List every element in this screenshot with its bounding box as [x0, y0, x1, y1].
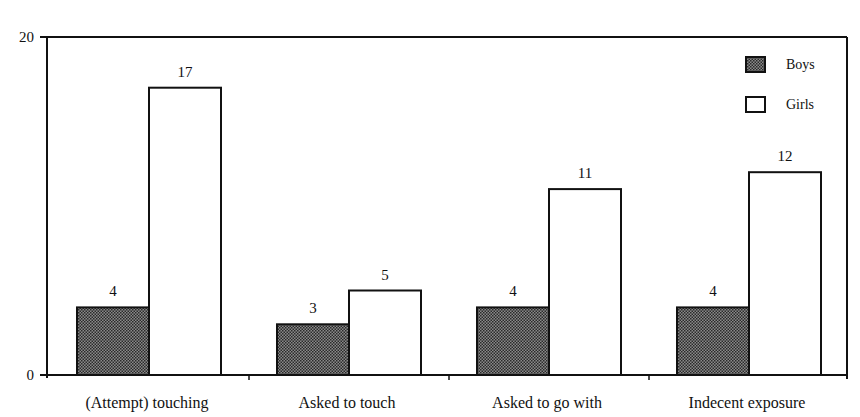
legend-swatch-girls: [746, 97, 765, 112]
x-category-label: Asked to touch: [299, 394, 396, 411]
bar-group: 35: [277, 267, 421, 376]
y-tick-label-top: 20: [19, 29, 34, 45]
x-category-label: Indecent exposure: [689, 394, 806, 412]
bar-girls: [549, 189, 621, 375]
bar-value-label: 3: [309, 300, 317, 316]
legend-label: Boys: [786, 57, 815, 72]
bar-boys: [677, 307, 749, 375]
bar-girls: [349, 291, 421, 376]
y-tick-label-bottom: 0: [27, 367, 35, 383]
plot-area: 200417(Attempt) touching35Asked to touch…: [19, 29, 847, 412]
bar-girls: [149, 88, 221, 375]
bar-value-label: 11: [578, 165, 592, 181]
bar-boys: [77, 307, 149, 375]
bar-chart: 200417(Attempt) touching35Asked to touch…: [0, 0, 860, 417]
bar-girls: [749, 172, 821, 375]
bar-boys: [277, 324, 349, 375]
legend: BoysGirls: [746, 57, 815, 112]
bar-group: 412: [677, 148, 821, 375]
bar-value-label: 4: [509, 283, 517, 299]
bar-group: 417: [77, 64, 221, 375]
bar-group: 411: [477, 165, 621, 375]
legend-label: Girls: [786, 97, 814, 112]
x-category-label: (Attempt) touching: [85, 394, 208, 412]
bar-value-label: 17: [178, 64, 194, 80]
bar-value-label: 12: [778, 148, 793, 164]
x-category-label: Asked to go with: [492, 394, 602, 412]
legend-swatch-boys: [746, 57, 765, 72]
bar-boys: [477, 307, 549, 375]
bar-value-label: 4: [709, 283, 717, 299]
bar-value-label: 4: [109, 283, 117, 299]
bar-value-label: 5: [381, 267, 389, 283]
